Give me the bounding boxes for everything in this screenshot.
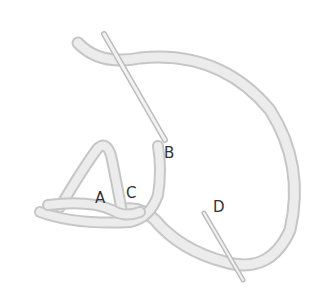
label-c: C (126, 186, 136, 201)
label-a: A (95, 191, 105, 206)
needle-top (104, 34, 165, 140)
label-b: B (164, 146, 174, 161)
label-d: D (213, 200, 225, 215)
needle-bottom (204, 213, 243, 280)
